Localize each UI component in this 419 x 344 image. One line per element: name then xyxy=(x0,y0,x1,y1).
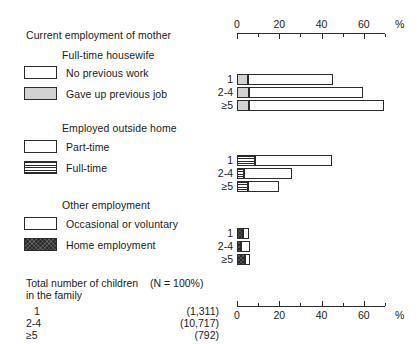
group1-title: Full-time housewife xyxy=(62,49,154,61)
figure-root: 0204060% Current employment of mother Fu… xyxy=(0,0,419,344)
bar-row-label: 2-4 xyxy=(199,241,233,252)
axis-tick-major xyxy=(364,34,365,39)
bar-segment xyxy=(237,74,248,85)
table-row-category-1: 1 xyxy=(34,305,40,317)
axis-tick-minor xyxy=(258,303,259,306)
axis-tick-minor xyxy=(343,34,344,37)
axis-tick-label: 40 xyxy=(316,19,328,30)
bar-row-label: 2-4 xyxy=(199,168,233,179)
axis-tick-label: 60 xyxy=(358,19,370,30)
axis-line xyxy=(237,306,385,307)
bar-row-label: ≥5 xyxy=(199,181,233,192)
legend-swatch-home-employment xyxy=(24,238,57,251)
axis-tick-label: 20 xyxy=(273,19,285,30)
axis-unit-label: % xyxy=(395,310,404,321)
table-title-line1: Total number of children xyxy=(26,277,138,289)
bar-segment xyxy=(249,87,363,98)
legend-swatch-no-previous-work xyxy=(24,66,57,79)
legend-swatch-gave-up-previous-job xyxy=(24,87,57,100)
axis-tick-minor xyxy=(343,303,344,306)
bar-segment xyxy=(248,74,334,85)
bar-segment xyxy=(243,228,249,239)
bar-row-label: 1 xyxy=(199,228,233,239)
bar-segment xyxy=(237,155,255,166)
table-row-value-1: (1,311) xyxy=(149,305,219,317)
legend-swatch-full-time xyxy=(24,161,57,174)
legend-label-part-time: Part-time xyxy=(66,141,110,153)
legend-swatch-occasional-or-voluntary xyxy=(24,217,57,230)
bar-segment xyxy=(255,155,332,166)
axis-tick-label: 0 xyxy=(234,310,240,321)
bar-segment xyxy=(237,168,244,179)
bar-row-label: ≥5 xyxy=(199,254,233,265)
table-row-category-2: 2-4 xyxy=(26,317,41,329)
axis-tick-major xyxy=(237,34,238,39)
legend-label-occasional-or-voluntary: Occasional or voluntary xyxy=(66,218,178,230)
legend-swatch-part-time xyxy=(24,140,57,153)
axis-tick-minor xyxy=(385,303,386,306)
bar-segment xyxy=(237,100,249,111)
axis-tick-major xyxy=(279,34,280,39)
axis-tick-minor xyxy=(385,34,386,37)
table-row-value-3: (792) xyxy=(149,329,219,341)
bar-segment xyxy=(237,254,245,265)
bar-segment xyxy=(245,254,250,265)
axis-tick-major xyxy=(237,301,238,306)
table-row-value-2: (10,717) xyxy=(149,317,219,329)
table-row-category-3: ≥5 xyxy=(26,329,38,341)
axis-tick-major xyxy=(322,34,323,39)
bar-row-label: 1 xyxy=(199,74,233,85)
legend-label-home-employment: Home employment xyxy=(66,239,156,251)
axis-tick-minor xyxy=(258,34,259,37)
page-title: Current employment of mother xyxy=(26,29,171,41)
table-title-line2: in the family xyxy=(26,289,82,301)
bar-segment xyxy=(237,181,248,192)
bar-segment xyxy=(244,168,292,179)
axis-tick-minor xyxy=(300,34,301,37)
axis-line xyxy=(237,33,385,34)
bar-segment xyxy=(249,100,384,111)
group2-title: Employed outside home xyxy=(62,122,177,134)
axis-tick-major xyxy=(364,301,365,306)
axis-tick-label: 0 xyxy=(234,19,240,30)
axis-tick-label: 40 xyxy=(316,310,328,321)
axis-unit-label: % xyxy=(395,19,404,30)
axis-tick-major xyxy=(279,301,280,306)
bar-segment xyxy=(241,241,249,252)
legend-label-gave-up-previous-job: Gave up previous job xyxy=(66,88,167,100)
bar-row-label: ≥5 xyxy=(199,100,233,111)
table-n-note: (N = 100%) xyxy=(150,277,203,289)
group3-title: Other employment xyxy=(62,199,150,211)
legend-label-full-time: Full-time xyxy=(66,162,107,174)
legend-label-no-previous-work: No previous work xyxy=(66,67,149,79)
bar-segment xyxy=(237,87,249,98)
bar-row-label: 1 xyxy=(199,155,233,166)
bar-row-label: 2-4 xyxy=(199,87,233,98)
axis-tick-label: 20 xyxy=(273,310,285,321)
bar-segment xyxy=(248,181,280,192)
axis-tick-minor xyxy=(300,303,301,306)
axis-tick-label: 60 xyxy=(358,310,370,321)
axis-tick-major xyxy=(322,301,323,306)
